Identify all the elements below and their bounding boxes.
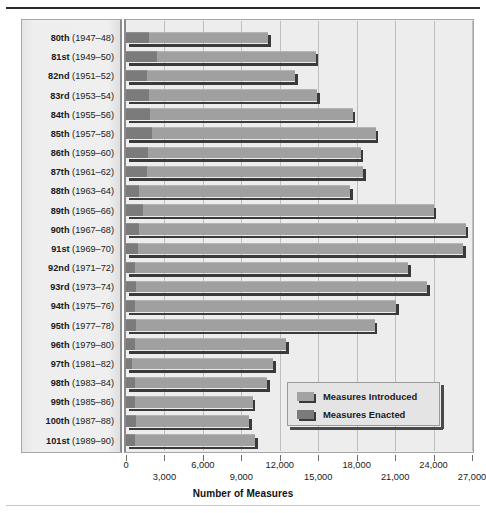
legend-item-enacted: Measures Enacted bbox=[297, 405, 405, 423]
bar-measures-enacted bbox=[126, 204, 143, 216]
congress-years: (1975–76) bbox=[70, 301, 114, 311]
congress-years: (1949–50) bbox=[70, 52, 114, 62]
bar-row bbox=[126, 88, 472, 107]
bar-measures-enacted bbox=[126, 377, 135, 389]
bar-row bbox=[126, 203, 472, 222]
category-label: 90th (1967–68) bbox=[22, 221, 123, 240]
congress-years: (1983–84) bbox=[70, 378, 114, 388]
congress-ordinal: 80th bbox=[51, 33, 70, 43]
legend-swatch-introduced-icon bbox=[297, 392, 314, 401]
bar-measures-enacted bbox=[126, 434, 135, 446]
congress-ordinal: 83rd bbox=[50, 91, 69, 101]
bar-measures-introduced bbox=[126, 147, 361, 159]
congress-years: (1951–52) bbox=[70, 71, 114, 81]
category-label: 89th (1965–66) bbox=[22, 202, 123, 221]
bar-measures-enacted bbox=[126, 185, 139, 197]
category-label: 81st (1949–50) bbox=[22, 48, 123, 67]
congress-ordinal: 91st bbox=[51, 244, 69, 254]
x-axis-tick-label: 6,000 bbox=[191, 460, 214, 470]
congress-ordinal: 84th bbox=[51, 110, 70, 120]
category-label: 83rd (1953–54) bbox=[22, 87, 123, 106]
bar-row bbox=[126, 241, 472, 260]
congress-years: (1989–90) bbox=[70, 436, 114, 446]
category-label: 80th (1947–48) bbox=[22, 29, 123, 48]
legend-label-enacted: Measures Enacted bbox=[323, 409, 405, 420]
congress-years: (1953–54) bbox=[70, 91, 114, 101]
category-label: 94th (1975–76) bbox=[22, 297, 123, 316]
legend-label-introduced: Measures Introduced bbox=[323, 391, 417, 402]
category-label: 97th (1981–82) bbox=[22, 355, 123, 374]
chart-legend: Measures Introduced Measures Enacted bbox=[287, 382, 440, 426]
congress-ordinal: 97th bbox=[51, 359, 70, 369]
bar-measures-enacted bbox=[126, 396, 135, 408]
category-label: 101st (1989–90) bbox=[22, 432, 123, 451]
bar-measures-enacted bbox=[126, 223, 139, 235]
bar-measures-enacted bbox=[126, 243, 138, 255]
x-axis-tick-label: 0 bbox=[123, 460, 128, 470]
bar-measures-introduced bbox=[126, 396, 253, 408]
bar-measures-enacted bbox=[126, 338, 135, 350]
congress-ordinal: 99th bbox=[51, 397, 70, 407]
bar-measures-enacted bbox=[126, 415, 136, 427]
chart-figure: 80th (1947–48)81st (1949–50)82nd (1951–5… bbox=[0, 0, 486, 513]
bar-row bbox=[126, 183, 472, 202]
congress-years: (1961–62) bbox=[70, 167, 114, 177]
bar-row bbox=[126, 279, 472, 298]
congress-years: (1979–80) bbox=[70, 340, 114, 350]
bar-measures-introduced bbox=[126, 300, 396, 312]
congress-years: (1963–64) bbox=[70, 186, 114, 196]
congress-ordinal: 90th bbox=[51, 225, 70, 235]
bar-measures-introduced bbox=[126, 204, 434, 216]
category-label: 91st (1969–70) bbox=[22, 240, 123, 259]
congress-years: (1957–58) bbox=[70, 129, 114, 139]
bar-measures-introduced bbox=[126, 89, 317, 101]
bar-row bbox=[126, 260, 472, 279]
bar-row bbox=[126, 107, 472, 126]
bar-measures-introduced bbox=[126, 108, 353, 120]
congress-years: (1985–86) bbox=[70, 397, 114, 407]
congress-years: (1967–68) bbox=[70, 225, 114, 235]
bar-measures-introduced bbox=[126, 358, 273, 370]
bar-measures-introduced bbox=[126, 223, 466, 235]
bar-measures-enacted bbox=[126, 166, 147, 178]
x-axis-tick bbox=[241, 455, 242, 461]
congress-ordinal: 89th bbox=[51, 206, 70, 216]
congress-ordinal: 101st bbox=[46, 436, 70, 446]
bar-row bbox=[126, 30, 472, 49]
x-axis-title: Number of Measures bbox=[0, 488, 486, 499]
congress-ordinal: 88th bbox=[51, 186, 70, 196]
bar-measures-introduced bbox=[126, 166, 363, 178]
congress-years: (1965–66) bbox=[70, 206, 114, 216]
bar-row bbox=[126, 164, 472, 183]
x-axis-tick bbox=[164, 455, 165, 461]
congress-ordinal: 81st bbox=[51, 52, 69, 62]
bar-measures-introduced bbox=[126, 243, 463, 255]
bar-measures-introduced bbox=[126, 127, 376, 139]
category-label: 88th (1963–64) bbox=[22, 182, 123, 201]
legend-item-introduced: Measures Introduced bbox=[297, 387, 417, 405]
bar-row bbox=[126, 299, 472, 318]
congress-ordinal: 85th bbox=[51, 129, 70, 139]
bar-measures-enacted bbox=[126, 32, 149, 44]
category-label: 82nd (1951–52) bbox=[22, 67, 123, 86]
x-axis-tick-label: 24,000 bbox=[419, 460, 447, 470]
bar-measures-enacted bbox=[126, 319, 136, 331]
category-label-list: 80th (1947–48)81st (1949–50)82nd (1951–5… bbox=[22, 29, 123, 451]
x-axis-tick bbox=[472, 455, 473, 461]
x-axis-tick bbox=[318, 455, 319, 461]
bar-row bbox=[126, 318, 472, 337]
congress-years: (1977–78) bbox=[70, 321, 114, 331]
bar-row bbox=[126, 68, 472, 87]
bar-measures-enacted bbox=[126, 300, 135, 312]
bar-measures-introduced bbox=[126, 262, 408, 274]
congress-ordinal: 94th bbox=[51, 301, 70, 311]
bar-measures-introduced bbox=[126, 434, 255, 446]
congress-ordinal: 95th bbox=[51, 321, 70, 331]
bar-measures-enacted bbox=[126, 281, 136, 293]
gridline bbox=[472, 21, 473, 451]
congress-ordinal: 96th bbox=[51, 340, 70, 350]
bar-row bbox=[126, 433, 472, 452]
congress-years: (1987–88) bbox=[70, 416, 114, 426]
x-axis-tick-label: 15,000 bbox=[304, 472, 332, 482]
bar-row bbox=[126, 126, 472, 145]
